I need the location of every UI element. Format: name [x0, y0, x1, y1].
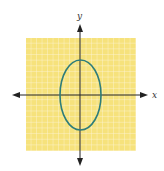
x-axis-left-arrow-icon	[12, 92, 20, 98]
y-axis-down-arrow-icon	[77, 158, 83, 166]
x-axis-label: x	[152, 90, 157, 100]
coordinate-plane: y x	[0, 0, 164, 171]
y-axis-label: y	[76, 11, 83, 21]
x-axis-right-arrow-icon	[140, 92, 148, 98]
y-axis-up-arrow-icon	[77, 24, 83, 32]
